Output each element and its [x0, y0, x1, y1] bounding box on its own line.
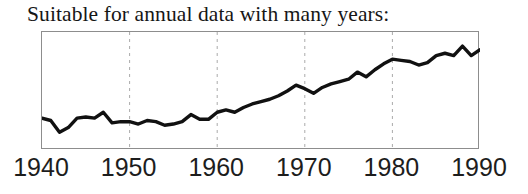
x-tick-label-1970: 1970 — [261, 152, 347, 182]
figure-container: Suitable for annual data with many years… — [0, 0, 528, 194]
gridlines-group — [130, 32, 393, 150]
x-tick-label-1990: 1990 — [436, 152, 522, 182]
page-title: Suitable for annual data with many years… — [27, 1, 517, 27]
x-axis: 194019501960197019801990 — [0, 152, 528, 186]
x-tick-label-1980: 1980 — [348, 152, 434, 182]
x-tick-label-1950: 1950 — [86, 152, 172, 182]
data-series-line — [42, 46, 480, 132]
plot-area — [41, 31, 479, 149]
x-tick-label-1940: 1940 — [0, 152, 84, 182]
line-chart-svg — [42, 32, 480, 150]
x-tick-label-1960: 1960 — [173, 152, 259, 182]
